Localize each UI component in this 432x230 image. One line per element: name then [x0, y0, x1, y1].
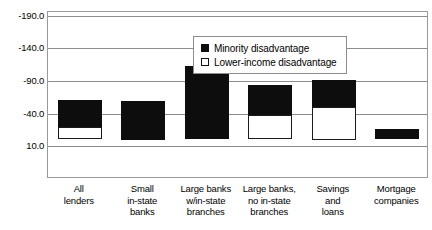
x-axis-category-label: Smallin-statebanks — [111, 183, 175, 218]
x-axis-category-line: All — [47, 183, 111, 195]
x-axis-category-line: banks — [111, 206, 175, 218]
x-axis-category-line: Small — [111, 183, 175, 195]
x-axis-category-line: Savings — [301, 183, 365, 195]
bar-segment-lower-income[interactable] — [58, 127, 102, 139]
bar-segment-lower-income[interactable] — [312, 107, 356, 140]
y-tick-label: 10.0 — [0, 141, 44, 151]
x-axis-category-line: branches — [174, 206, 238, 218]
x-axis-category-line: Large banks — [174, 183, 238, 195]
bar-segment-minority[interactable] — [121, 101, 165, 140]
legend-item-minority: Minority disadvantage — [201, 41, 337, 55]
x-axis-category-line: Large banks, — [238, 183, 302, 195]
legend-item-lower-income: Lower-income disadvantage — [201, 55, 337, 69]
x-axis-category-label: Mortgagecompanies — [365, 183, 429, 206]
legend-item-label: Minority disadvantage — [214, 43, 309, 54]
y-tick-label: -40.0 — [0, 109, 44, 119]
x-axis: AlllendersSmallin-statebanksLarge banksw… — [47, 183, 428, 230]
bar-group[interactable] — [121, 12, 165, 177]
bar-segment-minority[interactable] — [312, 80, 356, 107]
bar-group[interactable] — [58, 12, 102, 177]
y-axis: -190.0 -140.0 -90.0 -40.0 10.0 — [0, 0, 44, 230]
bar-segment-lower-income[interactable] — [248, 115, 292, 139]
bar-chart: -190.0 -140.0 -90.0 -40.0 10.0 Minority … — [0, 0, 432, 230]
x-axis-category-line: lenders — [47, 195, 111, 207]
x-axis-category-line: and — [301, 195, 365, 207]
bar-segment-minority[interactable] — [375, 129, 419, 139]
x-axis-category-line: Mortgage — [365, 183, 429, 195]
x-axis-category-label: Large banksw/in-statebranches — [174, 183, 238, 218]
y-tick-label: -190.0 — [0, 11, 44, 21]
x-axis-category-line: w/in-state — [174, 195, 238, 207]
y-tick-label: -140.0 — [0, 43, 44, 53]
bar-segment-minority[interactable] — [248, 85, 292, 116]
x-axis-category-line: companies — [365, 195, 429, 207]
x-axis-category-line: no in-state — [238, 195, 302, 207]
open-square-icon — [201, 58, 209, 66]
bar-segment-minority[interactable] — [58, 100, 102, 127]
x-axis-category-line: branches — [238, 206, 302, 218]
bar-group[interactable] — [375, 12, 419, 177]
y-tick-label: -90.0 — [0, 76, 44, 86]
bar-segment-minority[interactable] — [185, 66, 229, 139]
plot-area: Minority disadvantage Lower-income disad… — [47, 11, 428, 178]
x-axis-category-line: in-state — [111, 195, 175, 207]
x-axis-category-line: loans — [301, 206, 365, 218]
legend: Minority disadvantage Lower-income disad… — [193, 36, 347, 74]
x-axis-category-label: Large banks,no in-statebranches — [238, 183, 302, 218]
x-axis-category-label: Alllenders — [47, 183, 111, 206]
legend-item-label: Lower-income disadvantage — [214, 57, 337, 68]
filled-square-icon — [201, 44, 209, 52]
x-axis-category-label: Savingsandloans — [301, 183, 365, 218]
